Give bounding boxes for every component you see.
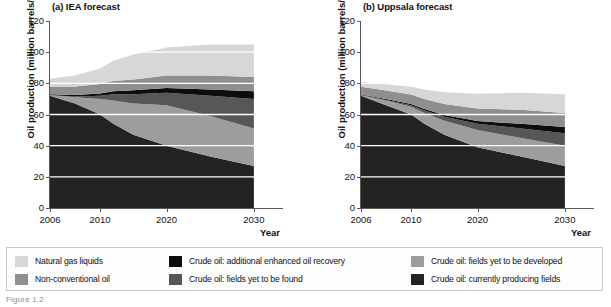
legend-swatch-currently-producing-fields (411, 274, 424, 285)
iea-y-tick (46, 146, 49, 147)
legend-swatch-fields-yet-to-be-found (169, 274, 182, 285)
iea-x-tick-label: 2010 (85, 214, 115, 225)
uppsala-y-tick (357, 115, 360, 116)
iea-x-tick-label: 2006 (35, 214, 65, 225)
uppsala-y-tick-label: 20 (327, 171, 355, 182)
uppsala-y-tick (357, 83, 360, 84)
iea-x-tick (167, 209, 168, 212)
iea-y-tick-label: 80 (16, 77, 44, 88)
uppsala-y-tick-label: 100 (327, 46, 355, 57)
uppsala-y-tick-label: 0 (327, 202, 355, 213)
panel-b-plot-area (361, 21, 594, 208)
legend-column-2: Crude oil: additional enhanced oil recov… (169, 252, 409, 288)
uppsala-x-tick-label: 2006 (346, 214, 376, 225)
iea-y-tick-label: 100 (16, 46, 44, 57)
legend-item: Crude oil: additional enhanced oil recov… (169, 252, 409, 270)
iea-y-tick (46, 83, 49, 84)
legend-label: Natural gas liquids (35, 256, 103, 266)
uppsala-y-tick-label: 60 (327, 109, 355, 120)
panel-a-plot-area (50, 21, 283, 208)
iea-y-tick-label: 40 (16, 140, 44, 151)
uppsala-area-svg (361, 21, 594, 208)
iea-y-tick (46, 52, 49, 53)
iea-y-tick (46, 208, 49, 209)
uppsala-y-tick (357, 146, 360, 147)
uppsala-y-tick-label: 120 (327, 15, 355, 26)
uppsala-x-tick-label: 2010 (396, 214, 426, 225)
panel-a-title: (a) IEA forecast (52, 1, 120, 12)
legend-label: Crude oil: fields yet to be developed (431, 256, 562, 266)
legend-swatch-enhanced-oil-recovery (169, 256, 182, 267)
iea-y-tick-label: 0 (16, 202, 44, 213)
legend-item: Crude oil: currently producing fields (411, 270, 606, 288)
uppsala-y-tick (357, 21, 360, 22)
legend-label: Crude oil: currently producing fields (431, 274, 560, 284)
panel-iea-forecast: (a) IEA forecast Oil production (million… (0, 0, 300, 240)
iea-y-axis-line (49, 21, 50, 208)
iea-x-tick (100, 209, 101, 212)
iea-y-tick-label: 120 (16, 15, 44, 26)
iea-y-tick (46, 177, 49, 178)
uppsala-x-axis-label: Year (564, 227, 598, 238)
legend-column-1: Natural gas liquids Non-conventional oil (15, 252, 165, 288)
legend-label: Crude oil: additional enhanced oil recov… (189, 256, 345, 266)
uppsala-x-tick (361, 209, 362, 212)
iea-x-tick-label: 2020 (152, 214, 182, 225)
iea-y-tick-label: 20 (16, 171, 44, 182)
iea-x-tick-label: 2030 (239, 214, 269, 225)
legend-swatch-natural-gas-liquids (15, 256, 28, 267)
iea-y-tick (46, 21, 49, 22)
legend-item: Non-conventional oil (15, 270, 165, 288)
uppsala-y-tick (357, 52, 360, 53)
uppsala-y-tick (357, 177, 360, 178)
uppsala-x-tick (411, 209, 412, 212)
iea-x-axis-label: Year (253, 227, 287, 238)
legend-column-3: Crude oil: fields yet to be developed Cr… (411, 252, 606, 288)
iea-y-tick-label: 60 (16, 109, 44, 120)
legend-item: Crude oil: fields yet to be developed (411, 252, 606, 270)
legend-swatch-fields-yet-to-be-developed (411, 256, 424, 267)
figure-caption-stub: Figure 1.2 (6, 295, 44, 304)
uppsala-x-tick (565, 209, 566, 212)
uppsala-x-tick (478, 209, 479, 212)
uppsala-y-tick (357, 208, 360, 209)
figure-stacked-area-oil-production: (a) IEA forecast Oil production (million… (0, 0, 611, 307)
uppsala-y-tick-label: 40 (327, 140, 355, 151)
legend-label: Non-conventional oil (35, 274, 110, 284)
uppsala-y-tick-label: 80 (327, 77, 355, 88)
legend-item: Natural gas liquids (15, 252, 165, 270)
legend-item: Crude oil: fields yet to be found (169, 270, 409, 288)
legend: Natural gas liquids Non-conventional oil… (6, 247, 603, 291)
uppsala-y-axis-line (360, 21, 361, 208)
panel-b-title: (b) Uppsala forecast (363, 1, 452, 12)
iea-x-tick (254, 209, 255, 212)
iea-x-tick (50, 209, 51, 212)
legend-label: Crude oil: fields yet to be found (189, 274, 303, 284)
panel-uppsala-forecast: (b) Uppsala forecast Oil production (mil… (311, 0, 611, 240)
legend-swatch-non-conventional-oil (15, 274, 28, 285)
uppsala-x-tick-label: 2030 (550, 214, 580, 225)
uppsala-x-tick-label: 2020 (463, 214, 493, 225)
iea-y-tick (46, 115, 49, 116)
iea-area-svg (50, 21, 283, 208)
